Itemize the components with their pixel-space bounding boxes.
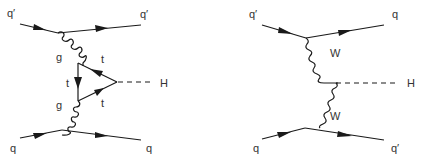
label-out-bottom: q [146,142,152,154]
arrow-icon [33,133,47,139]
label-top-lower: t [101,97,104,109]
label-out-top: q′ [140,8,148,20]
arrow-icon [278,27,293,34]
label-in-top: q′ [7,7,15,19]
w-boson-top [306,38,338,83]
arrow-icon [74,77,82,89]
label-in-top: q′ [249,8,257,20]
label-in-bottom: q [253,142,259,154]
label-out-bottom: q′ [391,142,399,154]
arrow-icon [337,131,352,137]
arrow-icon [277,132,291,138]
label-w-top: W [330,47,341,59]
arrow-icon [90,69,103,77]
label-in-bottom: q [10,142,16,154]
diagram-gluon-fusion: q′ q′ g t t t H g q q [7,7,168,154]
label-top-upper: t [101,53,104,65]
diagram-vector-boson-fusion: q′ q W H W q q′ [249,8,415,154]
label-higgs: H [407,77,415,89]
label-w-bottom: W [330,110,341,122]
label-gluon-bottom: g [56,99,62,111]
label-gluon-top: g [56,51,62,63]
arrow-icon [94,88,104,96]
feynman-diagrams: q′ q′ g t t t H g q q q′ q W H W q q [0,0,424,161]
label-higgs: H [160,77,168,89]
label-out-top: q [392,8,398,20]
arrow-icon [33,24,46,30]
label-top-left: t [66,77,69,89]
gluon-top [58,32,86,66]
arrow-icon [95,25,108,32]
arrow-icon [338,30,352,36]
